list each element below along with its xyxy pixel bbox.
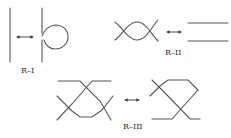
label-r1: R–I — [21, 66, 34, 75]
r1-looped-strand — [42, 8, 68, 62]
label-r3: R–III — [123, 122, 143, 131]
r3-right-configuration — [150, 80, 200, 119]
r2-parallel-strands — [188, 23, 228, 41]
r2-crossed-strands — [115, 20, 158, 41]
r2-equivalence-arrow-icon — [166, 30, 182, 33]
r3-left-configuration — [57, 81, 113, 120]
r3-equivalence-arrow-icon — [124, 98, 140, 101]
r1-equivalence-arrow-icon — [16, 35, 34, 38]
move-r2 — [115, 20, 228, 41]
label-r2: R–II — [165, 48, 181, 57]
move-r3 — [57, 80, 200, 120]
move-r1 — [10, 8, 68, 62]
reidemeister-diagram — [0, 0, 231, 138]
